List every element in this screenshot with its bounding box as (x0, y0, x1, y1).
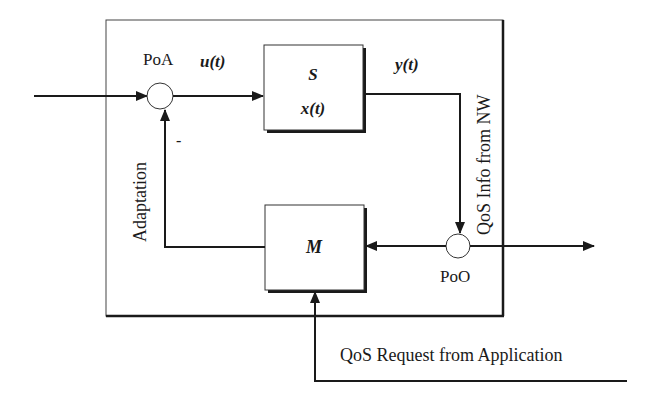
poa-node (147, 83, 173, 109)
qos-request-label: QoS Request from Application (340, 345, 562, 365)
poa-label: PoA (143, 50, 174, 69)
adaptation-feedback-arrow (165, 110, 265, 247)
qos-info-label: QoS Info from NW (474, 95, 494, 235)
system-block-s-state: x(t) (300, 99, 326, 118)
u-signal-label: u(t) (200, 52, 226, 71)
qos-request-arrow (315, 292, 627, 381)
poo-node (446, 234, 470, 258)
poo-label: PoO (440, 267, 470, 286)
block-diagram: PoA u(t) S x(t) y(t) QoS Info from NW Po… (0, 0, 663, 405)
feedback-sign: - (176, 132, 181, 149)
monitor-block-m-label: M (305, 237, 323, 257)
system-block-s-label: S (308, 65, 317, 84)
y-signal-arrow (366, 94, 460, 233)
y-signal-label: y(t) (393, 55, 419, 74)
adaptation-label: Adaptation (130, 162, 150, 242)
system-block-s (264, 45, 366, 133)
